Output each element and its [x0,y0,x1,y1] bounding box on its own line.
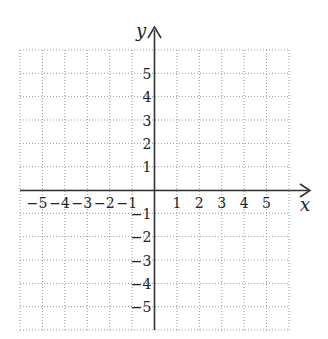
y-tick-label: 3 [143,113,152,129]
coordinate-plane: y x −5−4−3−2−112345 54321−1−2−3−4−5 [0,0,328,339]
y-tick-label: 2 [143,136,152,152]
x-tick-label: 5 [262,195,271,211]
x-tick-label: 1 [172,195,181,211]
x-tick-label: −5 [27,195,48,211]
x-tick-label: −2 [94,195,115,211]
y-tick-label: 1 [143,159,152,175]
x-tick-label: −3 [72,195,93,211]
y-tick-label: 5 [143,66,152,82]
y-tick-label: −2 [131,229,152,245]
x-tick-label: 2 [195,195,204,211]
x-tick-label: −4 [49,195,70,211]
y-tick-label: −4 [131,276,152,292]
y-tick-label: −1 [131,206,152,222]
x-axis-label: x [300,194,310,215]
x-tick-label: 4 [240,195,249,211]
y-tick-label: 4 [143,89,152,105]
y-axis-label: y [135,20,147,41]
y-tick-label: −3 [131,253,152,269]
y-tick-label: −5 [131,299,152,315]
x-tick-label: 3 [217,195,226,211]
